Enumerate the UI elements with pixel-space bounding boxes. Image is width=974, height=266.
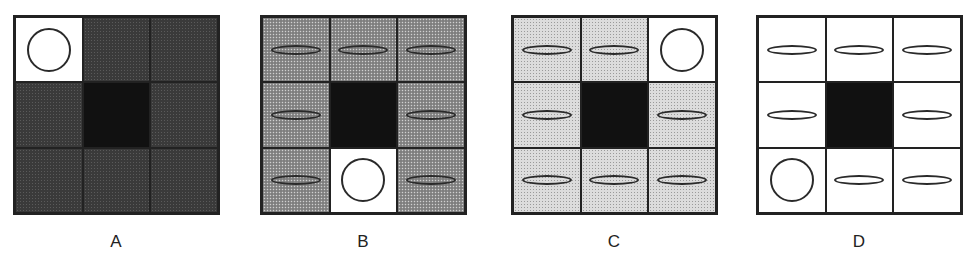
grid-cell-white	[826, 17, 894, 82]
circle-icon	[770, 158, 814, 202]
grid-cell-medium	[397, 82, 465, 147]
ellipse-icon	[589, 175, 639, 185]
grid-cell-medium	[262, 17, 330, 82]
panel-c	[511, 15, 718, 215]
ellipse-icon	[338, 45, 388, 55]
grid-cell-black	[330, 82, 398, 147]
grid-cell-medium	[262, 82, 330, 147]
ellipse-icon	[271, 45, 321, 55]
ellipse-icon	[902, 110, 952, 120]
grid-cell-dark	[150, 17, 218, 82]
ellipse-icon	[271, 110, 321, 120]
grid-cell-white	[893, 17, 961, 82]
grid-3x3	[756, 15, 963, 215]
panel-b	[260, 15, 467, 215]
grid-cell-dark	[83, 17, 151, 82]
grid-cell-light	[648, 82, 716, 147]
panel-d	[756, 15, 963, 215]
grid-cell-medium	[397, 148, 465, 213]
grid-cell-black	[83, 82, 151, 147]
grid-cell-white	[15, 17, 83, 82]
grid-3x3	[260, 15, 467, 215]
grid-cell-medium	[330, 17, 398, 82]
ellipse-icon	[406, 175, 456, 185]
panel-a	[13, 15, 220, 215]
grid-cell-light	[513, 17, 581, 82]
ellipse-icon	[406, 110, 456, 120]
grid-cell-medium	[397, 17, 465, 82]
ellipse-icon	[657, 110, 707, 120]
grid-cell-white	[893, 148, 961, 213]
ellipse-icon	[902, 45, 952, 55]
panel-label: C	[594, 232, 634, 252]
circle-icon	[27, 28, 71, 72]
ellipse-icon	[767, 110, 817, 120]
grid-cell-medium	[262, 148, 330, 213]
panel-label: B	[343, 232, 383, 252]
ellipse-icon	[522, 45, 572, 55]
circle-icon	[341, 158, 385, 202]
ellipse-icon	[406, 45, 456, 55]
grid-cell-light	[513, 148, 581, 213]
grid-cell-white	[758, 82, 826, 147]
ellipse-icon	[522, 110, 572, 120]
grid-cell-white	[826, 148, 894, 213]
panel-label: D	[839, 232, 879, 252]
ellipse-icon	[834, 45, 884, 55]
grid-cell-white	[758, 148, 826, 213]
circle-icon	[660, 28, 704, 72]
grid-3x3	[13, 15, 220, 215]
grid-cell-dark	[15, 82, 83, 147]
panel-label: A	[96, 232, 136, 252]
ellipse-icon	[657, 175, 707, 185]
grid-3x3	[511, 15, 718, 215]
grid-cell-dark	[15, 148, 83, 213]
grid-cell-dark	[83, 148, 151, 213]
ellipse-icon	[834, 175, 884, 185]
grid-cell-light	[513, 82, 581, 147]
ellipse-icon	[902, 175, 952, 185]
grid-cell-light	[581, 148, 649, 213]
grid-cell-black	[826, 82, 894, 147]
grid-cell-white	[330, 148, 398, 213]
grid-cell-white	[758, 17, 826, 82]
grid-cell-white	[893, 82, 961, 147]
grid-cell-black	[581, 82, 649, 147]
ellipse-icon	[767, 45, 817, 55]
grid-cell-light	[581, 17, 649, 82]
ellipse-icon	[522, 175, 572, 185]
grid-cell-white	[648, 17, 716, 82]
grid-cell-dark	[150, 148, 218, 213]
grid-cell-dark	[150, 82, 218, 147]
ellipse-icon	[271, 175, 321, 185]
grid-cell-light	[648, 148, 716, 213]
ellipse-icon	[589, 45, 639, 55]
